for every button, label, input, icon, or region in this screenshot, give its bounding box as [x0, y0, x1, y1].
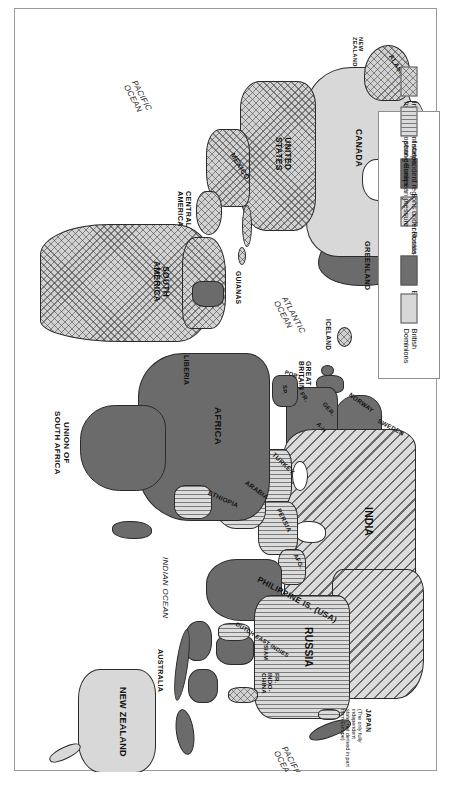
landmass-ireland [321, 365, 334, 376]
landmass-iceland [337, 327, 352, 347]
legend-label-under-pressure: Independent regions under strong Europea… [401, 142, 418, 230]
map-label-atlantic-ocean: ATLANTIC OCEAN [272, 295, 307, 339]
landmass-borneo [188, 669, 218, 703]
landmass-africa-south [80, 405, 166, 491]
map-label-central-america: CENTRAL AMERICA [176, 191, 192, 227]
legend-swatch-independent-states [401, 67, 418, 97]
map-label-guianas: GUIANAS [235, 271, 242, 304]
map-label-pacific-ocean-north: PACIFIC OCEAN [272, 745, 304, 772]
map-label-iceland: ICELAND [325, 319, 332, 350]
map-legend: Europe British Dominions European coloni… [378, 111, 440, 379]
landmass-cuba [242, 205, 252, 247]
water-black-sea [292, 461, 308, 491]
map-label-australia: NEW ZEALAND [118, 687, 128, 757]
map-label-canada: CANADA [354, 129, 364, 167]
legend-item-pressure: Independent regions under strong Europea… [401, 107, 418, 247]
map-label-russia: INDIA [363, 507, 374, 536]
landmass-australia [78, 669, 156, 772]
map-label-china: RUSSIA [303, 627, 314, 667]
landmass-new-zealand [47, 740, 83, 766]
map-label-dutch-east-indies: AUSTRALIA [156, 649, 164, 692]
map-label-philippine-islands: FR. INDO- CHINA [260, 673, 280, 694]
map-canvas: GREENLAND CANADA UNITED STATES ALASKA ME… [15, 9, 438, 772]
map-label-french-indochina: SIAM [262, 645, 268, 660]
map-page: GREENLAND CANADA UNITED STATES ALASKA ME… [0, 0, 457, 790]
landmass-guianas [192, 281, 224, 307]
landmass-korea [318, 709, 340, 720]
map-frame: GREENLAND CANADA UNITED STATES ALASKA ME… [14, 8, 437, 771]
landmass-philippines [228, 687, 258, 703]
landmass-madagascar [112, 521, 152, 539]
map-label-japan: JAPAN [365, 709, 372, 732]
map-label-south-america: SOUTH AMERICA [152, 261, 170, 302]
map-label-new-zealand-screen: NEW ZEALAND [352, 37, 365, 67]
map-label-spain: SP. [282, 385, 288, 395]
map-label-pacific-ocean-south: PACIFIC OCEAN [122, 79, 154, 117]
map-label-japan-note: (The only fully independent state, not d… [339, 709, 362, 772]
landmass-new-guinea [173, 708, 197, 756]
map-label-greenland: GREENLAND [363, 241, 372, 291]
landmass-central-america [196, 191, 222, 235]
landmass-hispaniola [238, 247, 246, 265]
map-label-united-states: UNITED STATES [274, 137, 292, 171]
landmass-ethiopia [174, 485, 212, 519]
legend-swatch-under-pressure [401, 107, 418, 137]
water-caspian-aral [294, 521, 326, 543]
map-label-liberia: LIBERIA [183, 355, 190, 385]
map-label-indian-ocean: INDIAN OCEAN [161, 557, 170, 618]
map-label-africa: AFRICA [213, 407, 224, 445]
map-label-union-of-south-africa: UNION OF SOUTH AFRICA [52, 411, 70, 475]
